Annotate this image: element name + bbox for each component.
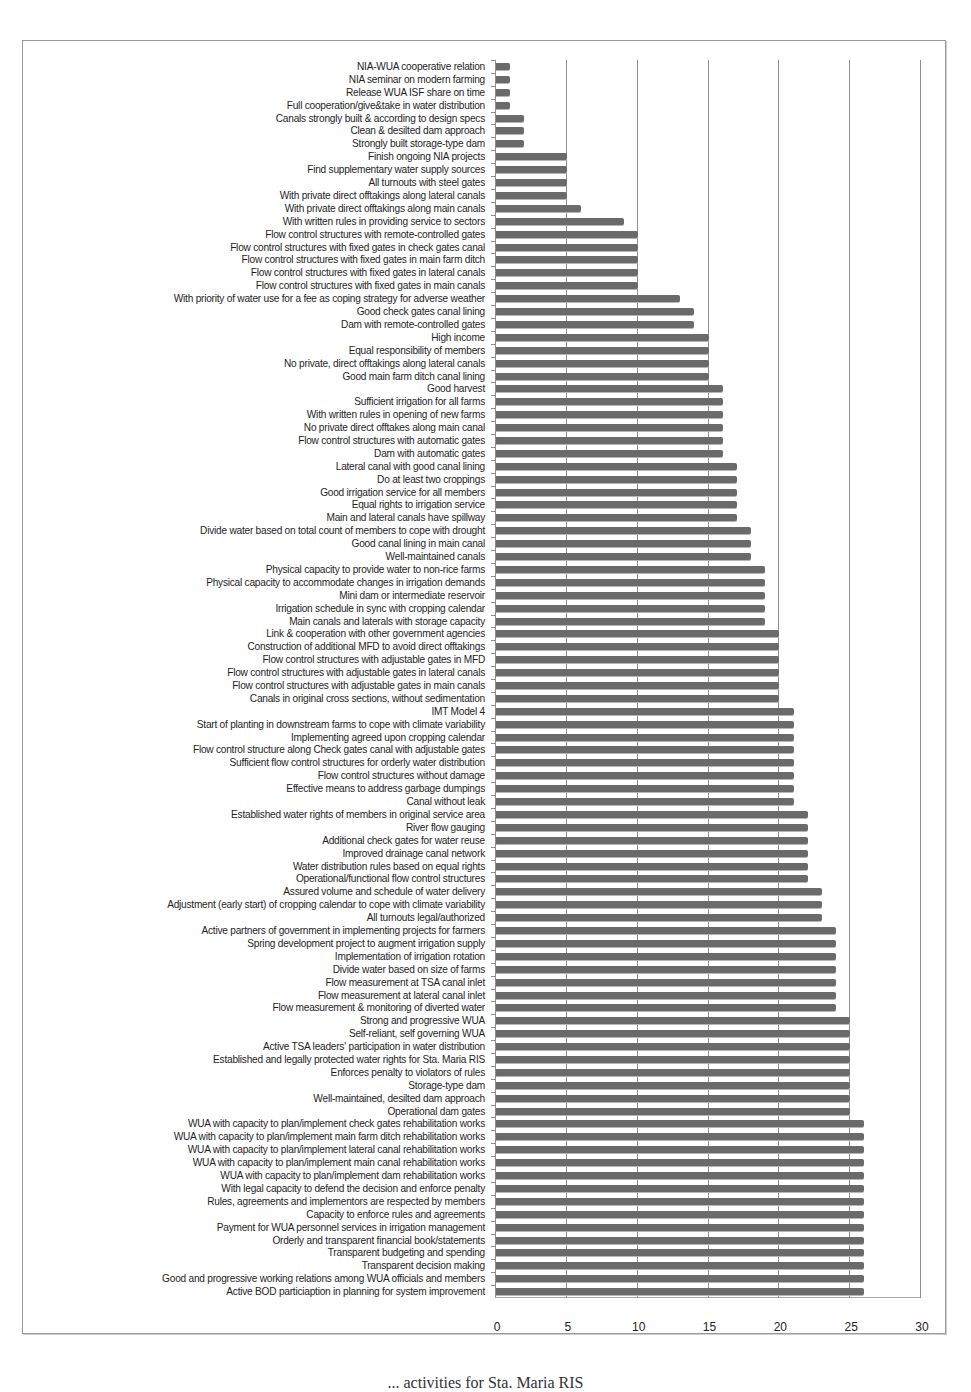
bar	[496, 1211, 864, 1218]
bar-row: Good and progressive working relations a…	[495, 1272, 920, 1285]
category-label: Flow control structures with fixed gates…	[53, 279, 485, 292]
bar	[496, 295, 680, 302]
category-label: Link & cooperation with other government…	[53, 627, 485, 640]
bar-row: Flow control structures with automatic g…	[495, 434, 920, 447]
category-label: Established and legally protected water …	[53, 1053, 485, 1066]
bar-row: Flow control structures with adjustable …	[495, 679, 920, 692]
bar	[496, 269, 638, 276]
y-tick	[491, 1182, 495, 1183]
category-label: Active TSA leaders' participation in wat…	[53, 1040, 485, 1053]
y-tick	[491, 1208, 495, 1209]
category-label: Flow control structures with remote-cont…	[53, 228, 485, 241]
bar	[496, 566, 765, 573]
bar-row: Active partners of government in impleme…	[495, 924, 920, 937]
bar	[496, 1095, 850, 1102]
bar	[496, 682, 779, 689]
category-label: Start of planting in downstream farms to…	[53, 718, 485, 731]
bar-row: Established water rights of members in o…	[495, 808, 920, 821]
bar-row: With priority of water use for a fee as …	[495, 292, 920, 305]
bar	[496, 1082, 850, 1089]
bar-row: Water distribution rules based on equal …	[495, 860, 920, 873]
bar-row: Assured volume and schedule of water del…	[495, 885, 920, 898]
bar-row: Flow control structure along Check gates…	[495, 743, 920, 756]
category-label: Capacity to enforce rules and agreements	[53, 1208, 485, 1221]
x-tick-label: 30	[915, 1320, 928, 1334]
bar	[496, 940, 836, 947]
bar	[496, 656, 779, 663]
bar-row: Transparent decision making	[495, 1259, 920, 1272]
category-label: Flow control structures with automatic g…	[53, 434, 485, 447]
category-label: Good and progressive working relations a…	[53, 1272, 485, 1285]
bar	[496, 772, 794, 779]
bar-row: Additional check gates for water reuse	[495, 834, 920, 847]
bar-row: River flow gauging	[495, 821, 920, 834]
category-label: Implementation of irrigation rotation	[53, 950, 485, 963]
y-tick	[491, 576, 495, 577]
bar-row: Canals in original cross sections, witho…	[495, 692, 920, 705]
bar	[496, 501, 737, 508]
bar	[496, 1043, 850, 1050]
bar	[496, 437, 723, 444]
category-label: Good canal lining in main canal	[53, 537, 485, 550]
y-tick	[491, 537, 495, 538]
bar	[496, 321, 694, 328]
bar	[496, 1224, 864, 1231]
bar-row: No private direct offtakes along main ca…	[495, 421, 920, 434]
bar	[496, 463, 737, 470]
y-tick	[491, 137, 495, 138]
y-tick	[491, 653, 495, 654]
bar-row: Mini dam or intermediate reservoir	[495, 589, 920, 602]
x-tick-label: 10	[632, 1320, 645, 1334]
category-label: Flow control structures with adjustable …	[53, 653, 485, 666]
bar	[496, 1198, 864, 1205]
category-label: Main and lateral canals have spillway	[53, 511, 485, 524]
category-label: Additional check gates for water reuse	[53, 834, 485, 847]
bar	[496, 179, 567, 186]
bar	[496, 721, 794, 728]
bar-row: With written rules in providing service …	[495, 215, 920, 228]
y-tick	[491, 769, 495, 770]
y-tick	[491, 808, 495, 809]
y-tick	[491, 847, 495, 848]
category-label: River flow gauging	[53, 821, 485, 834]
category-label: Dam with remote-controlled gates	[53, 318, 485, 331]
y-tick	[491, 1130, 495, 1131]
bar-row: Dam with remote-controlled gates	[495, 318, 920, 331]
bar	[496, 140, 524, 147]
category-label: Full cooperation/give&take in water dist…	[53, 99, 485, 112]
bar	[496, 192, 567, 199]
bar	[496, 89, 510, 96]
bar	[496, 231, 638, 238]
y-tick	[491, 1066, 495, 1067]
bar	[496, 514, 737, 521]
bar-row: Equal rights to irrigation service	[495, 498, 920, 511]
y-tick	[491, 486, 495, 487]
bar-row: Flow control structures with adjustable …	[495, 653, 920, 666]
y-tick	[491, 1040, 495, 1041]
category-label: Flow measurement & monitoring of diverte…	[53, 1001, 485, 1014]
bar	[496, 76, 510, 83]
bar-row: Good canal lining in main canal	[495, 537, 920, 550]
category-label: Established water rights of members in o…	[53, 808, 485, 821]
y-tick	[491, 937, 495, 938]
category-label: Water distribution rules based on equal …	[53, 860, 485, 873]
category-label: WUA with capacity to plan/implement main…	[53, 1156, 485, 1169]
bar-row: Improved drainage canal network	[495, 847, 920, 860]
category-label: With written rules in providing service …	[53, 215, 485, 228]
y-tick	[491, 976, 495, 977]
category-label: All turnouts legal/authorized	[53, 911, 485, 924]
bar-row: Irrigation schedule in sync with croppin…	[495, 602, 920, 615]
bar	[496, 540, 751, 547]
category-label: Finish ongoing NIA projects	[53, 150, 485, 163]
bar-row: Flow measurement & monitoring of diverte…	[495, 1001, 920, 1014]
category-label: Flow control structures with adjustable …	[53, 666, 485, 679]
bar-row: All turnouts with steel gates	[495, 176, 920, 189]
category-label: NIA-WUA cooperative relation	[53, 60, 485, 73]
bar-row: Physical capacity to accommodate changes…	[495, 576, 920, 589]
y-tick	[491, 524, 495, 525]
y-tick	[491, 911, 495, 912]
bar-row: Do at least two croppings	[495, 473, 920, 486]
bar-row: Rules, agreements and implementors are r…	[495, 1195, 920, 1208]
bar-row: Canal without leak	[495, 795, 920, 808]
category-label: Good check gates canal lining	[53, 305, 485, 318]
